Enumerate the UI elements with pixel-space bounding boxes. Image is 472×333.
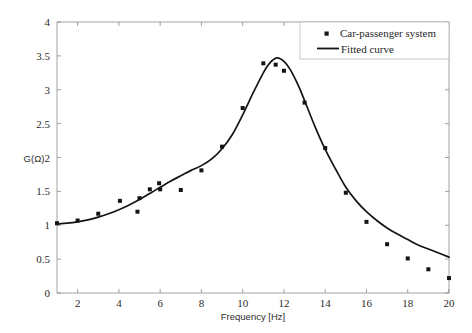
x-tick-label: 12 — [278, 297, 289, 309]
data-point-marker — [274, 63, 278, 67]
data-point-marker — [447, 276, 451, 280]
x-tick-label: 4 — [116, 297, 122, 309]
y-axis-title: G(Ω) — [24, 153, 45, 164]
y-tick-label: 2 — [45, 152, 51, 164]
y-tick-label: 2.5 — [36, 118, 50, 130]
x-tick-label: 2 — [75, 297, 81, 309]
data-point-marker — [323, 146, 327, 150]
x-tick-label: 18 — [402, 297, 414, 309]
data-point-marker — [118, 199, 122, 203]
y-tick-label: 4 — [45, 16, 51, 28]
y-tick-label: 0.5 — [36, 253, 50, 265]
data-point-marker — [261, 61, 265, 65]
y-tick-label: 3 — [45, 84, 51, 96]
data-point-marker — [303, 101, 307, 105]
data-point-marker — [76, 219, 80, 223]
y-tick-label: 0 — [45, 287, 51, 299]
chart-legend: Car-passenger system Fitted curve — [300, 22, 449, 59]
x-tick-label: 6 — [157, 297, 163, 309]
y-tick-label: 1 — [45, 219, 51, 231]
frequency-response-chart: 2468101214161820 00.511.522.533.54 G(Ω) … — [0, 0, 472, 333]
data-point-marker — [138, 196, 142, 200]
chart-figure: 2468101214161820 00.511.522.533.54 G(Ω) … — [0, 0, 472, 333]
x-tick-label: 14 — [320, 297, 332, 309]
y-tick-label: 1.5 — [36, 185, 50, 197]
legend-label-scatter: Car-passenger system — [340, 27, 436, 39]
x-axis-title: Frequency [Hz] — [221, 311, 285, 322]
data-point-marker — [282, 69, 286, 73]
data-point-marker — [364, 220, 368, 224]
data-point-marker — [241, 106, 245, 110]
data-point-marker — [135, 210, 139, 214]
data-point-marker — [220, 145, 224, 149]
x-tick-label: 20 — [444, 297, 456, 309]
x-tick-label: 8 — [199, 297, 205, 309]
y-tick-label: 3.5 — [36, 50, 50, 62]
data-point-marker — [385, 242, 389, 246]
data-point-marker — [199, 168, 203, 172]
data-point-marker — [426, 267, 430, 271]
x-tick-label: 10 — [237, 297, 249, 309]
data-point-marker — [344, 191, 348, 195]
x-tick-label: 16 — [361, 297, 373, 309]
data-point-marker — [158, 187, 162, 191]
data-point-marker — [96, 212, 100, 216]
legend-marker-scatter — [325, 32, 329, 36]
data-point-marker — [157, 181, 161, 185]
data-point-marker — [406, 256, 410, 260]
data-point-marker — [179, 188, 183, 192]
data-point-marker — [148, 187, 152, 191]
data-point-marker — [55, 221, 59, 225]
legend-label-line: Fitted curve — [341, 43, 394, 55]
